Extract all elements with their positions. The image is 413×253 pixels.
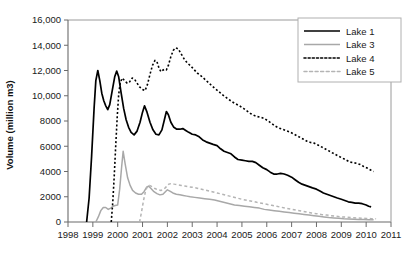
y-tick-label: 6000 — [40, 141, 61, 152]
chart-svg: 0200040006000800010,00012,00014,00016,00… — [0, 0, 413, 253]
x-tick-label: 2002 — [157, 229, 178, 240]
legend-label-lake-5: Lake 5 — [346, 66, 375, 77]
x-axis-ticks: 1998199920002001200220032004200520062007… — [57, 222, 401, 240]
x-tick-label: 1998 — [57, 229, 78, 240]
x-tick-label: 2010 — [356, 229, 377, 240]
x-tick-label: 2005 — [231, 229, 252, 240]
x-tick-label: 2007 — [281, 229, 302, 240]
x-tick-label: 2001 — [132, 229, 153, 240]
legend-label-lake-1: Lake 1 — [346, 26, 375, 37]
y-tick-label: 4000 — [40, 166, 61, 177]
legend-label-lake-3: Lake 3 — [346, 39, 375, 50]
x-tick-label: 2011 — [381, 229, 401, 240]
y-tick-label: 12,000 — [32, 65, 61, 76]
x-tick-label: 2004 — [207, 229, 228, 240]
x-tick-label: 2009 — [331, 229, 352, 240]
x-tick-label: 1999 — [82, 229, 103, 240]
x-tick-label: 2008 — [306, 229, 327, 240]
y-axis-title: Volume (million m3) — [4, 80, 15, 170]
series-line-lake-1 — [87, 71, 371, 223]
y-tick-label: 0 — [56, 216, 61, 227]
line-chart: 0200040006000800010,00012,00014,00016,00… — [0, 0, 413, 253]
chart-legend: Lake 1Lake 3Lake 4Lake 5 — [298, 18, 401, 82]
y-tick-label: 8000 — [40, 115, 61, 126]
y-tick-label: 2000 — [40, 191, 61, 202]
x-tick-label: 2000 — [107, 229, 128, 240]
y-axis-ticks: 0200040006000800010,00012,00014,00016,00… — [32, 14, 68, 227]
x-tick-label: 2006 — [256, 229, 277, 240]
series-line-lake-3 — [96, 151, 374, 222]
x-tick-label: 2003 — [182, 229, 203, 240]
y-tick-label: 10,000 — [32, 90, 61, 101]
y-tick-label: 14,000 — [32, 40, 61, 51]
y-tick-label: 16,000 — [32, 14, 61, 25]
series-line-lake-5 — [140, 183, 377, 222]
legend-label-lake-4: Lake 4 — [346, 53, 375, 64]
